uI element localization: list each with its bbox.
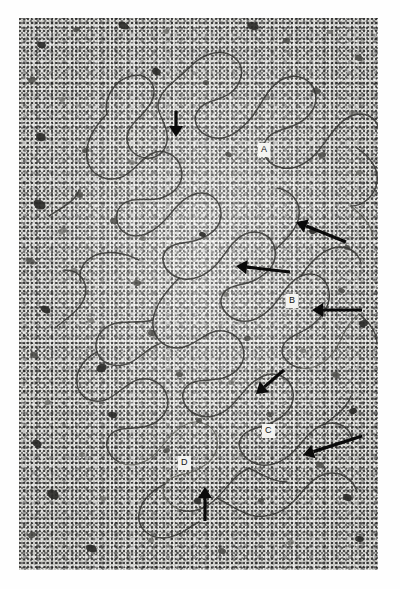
region-label-c: C: [262, 424, 275, 438]
region-label-a: A: [258, 143, 270, 157]
micrograph-figure: ABCD: [0, 0, 400, 589]
region-label-d: D: [178, 456, 191, 470]
electron-micrograph-plate: [19, 18, 378, 570]
vignette-overlay: [19, 18, 378, 570]
region-label-b: B: [286, 294, 298, 308]
